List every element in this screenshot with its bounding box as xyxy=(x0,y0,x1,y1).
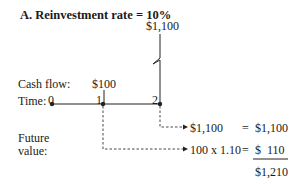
break-line-icon xyxy=(153,34,160,104)
time-dot-1 xyxy=(101,102,105,106)
timeline-graphic xyxy=(0,0,295,184)
dashed-connector-2 xyxy=(160,106,183,127)
arrow-icon xyxy=(183,147,188,152)
time-dot-0 xyxy=(50,102,54,106)
arrow-icon xyxy=(183,125,188,130)
dashed-connector-1 xyxy=(103,106,183,149)
